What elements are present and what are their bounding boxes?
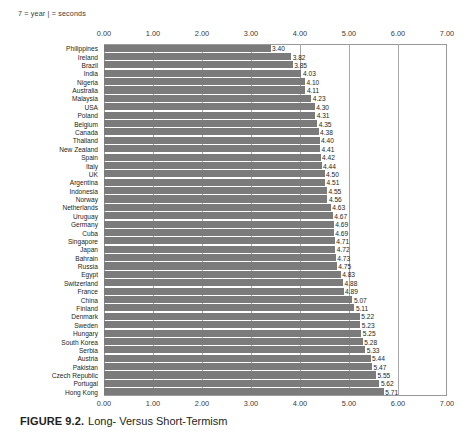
x-axis-tick-label: 1.00 — [146, 29, 160, 38]
bar-row[interactable]: India4.03 — [0, 69, 470, 77]
bar-row[interactable]: Pakistan5.47 — [0, 362, 470, 370]
bar[interactable] — [104, 112, 315, 119]
bar[interactable] — [104, 78, 305, 85]
bar-row[interactable]: Cuba4.69 — [0, 228, 470, 236]
bar[interactable] — [104, 246, 335, 253]
bar[interactable] — [104, 296, 352, 303]
bar[interactable] — [104, 204, 331, 211]
bar[interactable] — [104, 45, 271, 52]
x-axis-tick-label: 7.00 — [440, 29, 454, 38]
category-label: Norway — [76, 196, 98, 203]
bar[interactable] — [104, 103, 315, 110]
bar[interactable] — [104, 195, 327, 202]
category-label: Czech Republic — [52, 372, 98, 379]
bar[interactable] — [104, 288, 344, 295]
bar[interactable] — [104, 229, 334, 236]
bar-row[interactable]: Japan4.72 — [0, 245, 470, 253]
bar-row[interactable]: Italy4.44 — [0, 161, 470, 169]
bar-row[interactable]: Denmark5.22 — [0, 312, 470, 320]
bar-row[interactable]: New Zealand4.41 — [0, 145, 470, 153]
bar-row[interactable]: China5.07 — [0, 295, 470, 303]
x-axis-tick-label: 4.00 — [293, 399, 307, 408]
bar[interactable] — [104, 271, 341, 278]
bar-row[interactable]: UK4.50 — [0, 170, 470, 178]
bar-row[interactable]: Finland5.11 — [0, 304, 470, 312]
x-axis-tick-label: 5.00 — [342, 399, 356, 408]
bar[interactable] — [104, 61, 293, 68]
bar[interactable] — [104, 254, 336, 261]
bar-row[interactable]: Belgium4.35 — [0, 119, 470, 127]
bar-row[interactable]: Serbia5.33 — [0, 346, 470, 354]
bar[interactable] — [104, 355, 371, 362]
bar-row[interactable]: Malaysia4.23 — [0, 94, 470, 102]
bar-row[interactable]: Russia4.75 — [0, 262, 470, 270]
bar[interactable] — [104, 70, 301, 77]
bar[interactable] — [104, 338, 363, 345]
bar[interactable] — [104, 321, 360, 328]
bar[interactable] — [104, 95, 311, 102]
bar-row[interactable]: Hong Kong5.71 — [0, 388, 470, 396]
bar-row[interactable]: Indonesia4.55 — [0, 186, 470, 194]
bar[interactable] — [104, 86, 305, 93]
bar[interactable] — [104, 179, 325, 186]
bar-row[interactable]: Portugal5.62 — [0, 379, 470, 387]
bar-row[interactable]: Philippines3.40 — [0, 44, 470, 52]
bar[interactable] — [104, 371, 376, 378]
bar-row[interactable]: Argentina4.51 — [0, 178, 470, 186]
bar-row[interactable]: Nigeria4.10 — [0, 78, 470, 86]
bar-value-label: 5.47 — [374, 363, 387, 370]
bar-rows: Philippines3.40Ireland3.82Brazil3.85Indi… — [0, 44, 470, 396]
bar[interactable] — [104, 304, 354, 311]
bar[interactable] — [104, 128, 319, 135]
bar-value-label: 4.41 — [322, 145, 335, 152]
bar-row[interactable]: Canada4.38 — [0, 128, 470, 136]
bar-row[interactable]: Singapore4.71 — [0, 237, 470, 245]
bar-row[interactable]: Sweden5.23 — [0, 321, 470, 329]
bar[interactable] — [104, 237, 335, 244]
bar-row[interactable]: Ireland3.82 — [0, 52, 470, 60]
bar-row[interactable]: Hungary5.25 — [0, 329, 470, 337]
bar-row[interactable]: Czech Republic5.55 — [0, 371, 470, 379]
bar[interactable] — [104, 170, 325, 177]
bar-row[interactable]: Netherlands4.63 — [0, 203, 470, 211]
x-axis-tick-label: 1.00 — [146, 399, 160, 408]
bar[interactable] — [104, 120, 317, 127]
bar-row[interactable]: Switzerland4.88 — [0, 279, 470, 287]
bar-row[interactable]: Australia4.11 — [0, 86, 470, 94]
bar[interactable] — [104, 346, 365, 353]
bar[interactable] — [104, 187, 327, 194]
bar-row[interactable]: Spain4.42 — [0, 153, 470, 161]
bar[interactable] — [104, 154, 321, 161]
bar-row[interactable]: Bahrain4.73 — [0, 254, 470, 262]
bar[interactable] — [104, 162, 322, 169]
category-label: Australia — [72, 87, 98, 94]
bar[interactable] — [104, 137, 320, 144]
bar-row[interactable]: Thailand4.40 — [0, 136, 470, 144]
category-label: Japan — [80, 246, 98, 253]
bar[interactable] — [104, 262, 337, 269]
bar[interactable] — [104, 380, 379, 387]
bar[interactable] — [104, 279, 343, 286]
bar[interactable] — [104, 388, 384, 395]
bar-row[interactable]: Uruguay4.67 — [0, 212, 470, 220]
bar-row[interactable]: Poland4.31 — [0, 111, 470, 119]
bar-value-label: 4.75 — [338, 263, 351, 270]
bar-row[interactable]: USA4.30 — [0, 103, 470, 111]
category-label: Pakistan — [73, 363, 98, 370]
bar-row[interactable]: Austria5.44 — [0, 354, 470, 362]
x-axis-tick-label: 0.00 — [97, 399, 111, 408]
bar[interactable] — [104, 53, 291, 60]
bar-row[interactable]: Brazil3.85 — [0, 61, 470, 69]
bar-row[interactable]: Egypt4.83 — [0, 270, 470, 278]
bar[interactable] — [104, 145, 320, 152]
bar-row[interactable]: France4.89 — [0, 287, 470, 295]
bar[interactable] — [104, 212, 333, 219]
bar[interactable] — [104, 313, 360, 320]
bar[interactable] — [104, 330, 361, 337]
bar[interactable] — [104, 221, 334, 228]
bar-row[interactable]: Germany4.69 — [0, 220, 470, 228]
bar[interactable] — [104, 363, 372, 370]
bar-row[interactable]: Norway4.56 — [0, 195, 470, 203]
category-label: South Korea — [61, 338, 98, 345]
bar-row[interactable]: South Korea5.28 — [0, 337, 470, 345]
